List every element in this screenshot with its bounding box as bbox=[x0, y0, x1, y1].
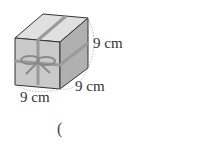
height-label: 9 cm bbox=[93, 36, 123, 51]
answer-parenthesis: ( bbox=[57, 120, 62, 138]
gift-box-figure bbox=[0, 0, 210, 144]
depth-label: 9 cm bbox=[75, 79, 105, 94]
width-label: 9 cm bbox=[20, 90, 50, 105]
